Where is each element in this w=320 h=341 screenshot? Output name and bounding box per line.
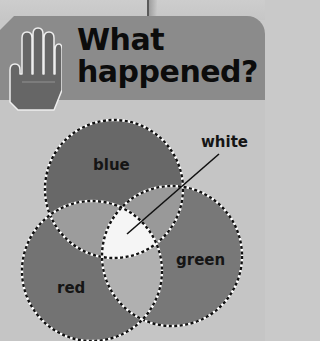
page-fold-shadow	[149, 0, 157, 18]
label-red: red	[57, 279, 85, 297]
label-white: white	[201, 133, 248, 151]
page-title: What happened?	[77, 24, 258, 88]
label-blue: blue	[93, 156, 130, 174]
label-green: green	[176, 251, 225, 269]
page-fold-line	[147, 0, 149, 18]
title-line-1: What	[77, 22, 164, 57]
title-line-2: happened?	[77, 54, 258, 89]
